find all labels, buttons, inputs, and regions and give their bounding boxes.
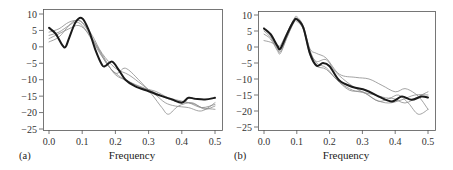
plot-frame: [44, 10, 223, 131]
panel-a: 1050−5−10−15−20−250.00.10.20.30.40.5Freq…: [19, 9, 223, 163]
y-tick-label: −15: [21, 91, 37, 102]
y-tick-label: −10: [21, 74, 37, 85]
y-tick-label: 10: [242, 10, 252, 21]
x-tick-label: 0.1: [291, 136, 304, 147]
series-line-thin: [49, 25, 215, 107]
x-tick-label: 0.1: [76, 136, 89, 147]
series-line-bold: [49, 18, 215, 103]
y-tick-label: 0: [32, 41, 37, 52]
series-line-thin: [49, 20, 215, 109]
series-line-thin: [49, 22, 215, 114]
y-tick-label: 5: [247, 26, 252, 37]
x-tick-label: 0.2: [323, 136, 336, 147]
x-tick-label: 0.5: [209, 136, 222, 147]
y-tick-label: 5: [32, 25, 37, 36]
series-group: [264, 16, 428, 114]
series-line-thin: [264, 21, 428, 115]
x-tick-label: 0.3: [356, 136, 369, 147]
y-tick-label: −25: [236, 122, 252, 133]
x-axis-title: Frequency: [323, 149, 370, 161]
y-tick-label: −5: [26, 58, 37, 69]
y-tick-label: −10: [236, 74, 252, 85]
y-tick-label: −20: [21, 107, 37, 118]
figure: 1050−5−10−15−20−250.00.10.20.30.40.5Freq…: [0, 0, 453, 170]
x-tick-label: 0.4: [389, 136, 402, 147]
x-tick-label: 0.4: [176, 136, 189, 147]
panel-label: (a): [19, 150, 31, 162]
y-tick-label: −5: [241, 58, 252, 69]
y-tick-label: −20: [236, 106, 252, 117]
series-group: [49, 18, 215, 114]
panel-label: (b): [234, 150, 247, 162]
x-tick-label: 0.3: [142, 136, 155, 147]
y-tick-label: 0: [247, 42, 252, 53]
x-tick-label: 0.5: [422, 136, 435, 147]
plot-frame: [259, 12, 436, 131]
y-tick-label: 10: [27, 9, 37, 20]
x-tick-label: 0.2: [109, 136, 122, 147]
x-axis-title: Frequency: [109, 149, 156, 161]
x-tick-label: 0.0: [43, 136, 56, 147]
y-tick-label: −15: [236, 90, 252, 101]
panel-b: 1050−5−10−15−20−250.00.10.20.30.40.5Freq…: [234, 10, 436, 163]
x-tick-label: 0.0: [258, 136, 271, 147]
y-tick-label: −25: [21, 124, 37, 135]
